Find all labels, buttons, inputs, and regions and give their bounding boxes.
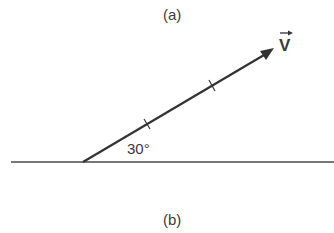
panel-label-a: (a) — [163, 6, 181, 23]
vector-diagram — [0, 0, 334, 233]
angle-label: 30° — [127, 140, 150, 157]
vector-label: V — [279, 36, 290, 56]
vector-shaft — [83, 55, 264, 162]
vector-overarrow-head-icon — [288, 31, 293, 36]
arrowhead-icon — [260, 48, 274, 60]
panel-label-b: (b) — [163, 211, 181, 228]
